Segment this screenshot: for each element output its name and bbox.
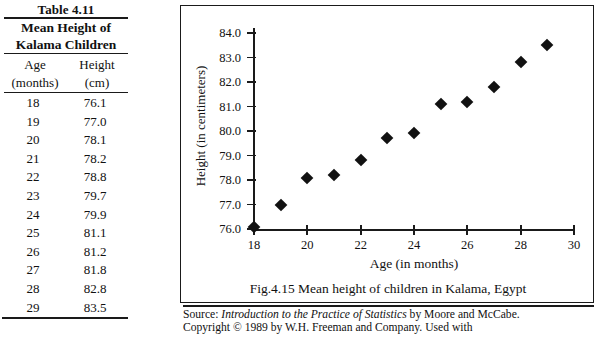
table-column-headers: Age (months) Height (cm) <box>4 56 128 92</box>
cell-height: 81.1 <box>66 224 124 243</box>
data-point <box>488 81 501 94</box>
y-axis-tick-label: 84.0 <box>193 27 241 40</box>
table-body: 1876.11977.02078.12178.22278.82379.72479… <box>4 94 128 317</box>
table-row: 2681.2 <box>4 243 128 262</box>
y-axis-tick <box>247 32 256 34</box>
y-axis-tick-label: 83.0 <box>193 52 241 65</box>
cell-height: 78.8 <box>66 168 124 187</box>
y-axis-tick-label: 77.0 <box>193 199 241 212</box>
column-header-age: Age (months) <box>6 56 64 92</box>
y-axis-tick-label: 81.0 <box>193 101 241 114</box>
data-point <box>461 95 474 108</box>
table-subtitle-line1: Mean Height of <box>2 20 130 37</box>
y-axis-tick-label: 80.0 <box>193 125 241 138</box>
cell-age: 21 <box>4 150 62 169</box>
y-axis-tick <box>247 204 256 206</box>
source-divider <box>183 305 594 307</box>
figure-caption: Fig.4.15 Mean height of children in Kala… <box>181 281 595 297</box>
cell-height: 82.8 <box>66 280 124 299</box>
table-rule-bottom <box>2 317 128 319</box>
scatter-plot-area: Height (in centimeters) Age (in months) … <box>181 6 595 304</box>
table-row: 2781.8 <box>4 261 128 280</box>
source-book-title: Introduction to the Practice of Statisti… <box>221 308 406 321</box>
y-axis-tick <box>247 106 256 108</box>
source-note: Source: Introduction to the Practice of … <box>183 308 598 335</box>
x-axis-tick-label: 24 <box>394 238 434 253</box>
x-axis-tick-label: 30 <box>554 238 594 253</box>
cell-age: 20 <box>4 131 62 150</box>
cell-age: 26 <box>4 243 62 262</box>
table-subtitle-line2: Kalama Children <box>2 37 130 54</box>
x-axis-tick <box>306 225 308 235</box>
y-axis-tick <box>247 130 256 132</box>
source-label: Source: <box>183 308 218 321</box>
table-row: 2379.7 <box>4 187 128 206</box>
y-axis-tick <box>247 81 256 83</box>
table-row: 1876.1 <box>4 94 128 113</box>
source-copyright: Copyright © 1989 by W.H. Freeman and Com… <box>183 321 473 334</box>
data-table-panel: Table 4.11 Mean Height of Kalama Childre… <box>0 0 178 340</box>
data-point <box>274 198 287 211</box>
cell-age: 22 <box>4 168 62 187</box>
cell-age: 27 <box>4 261 62 280</box>
cell-age: 28 <box>4 280 62 299</box>
data-point <box>408 127 421 140</box>
cell-height: 78.1 <box>66 131 124 150</box>
cell-age: 19 <box>4 113 62 132</box>
cell-age: 29 <box>4 299 62 318</box>
cell-height: 79.9 <box>66 206 124 225</box>
column-header-age-line1: Age <box>6 56 64 74</box>
x-axis-tick-label: 22 <box>341 238 381 253</box>
table-row: 1977.0 <box>4 113 128 132</box>
cell-age: 24 <box>4 206 62 225</box>
cell-height: 78.2 <box>66 150 124 169</box>
x-axis-tick <box>466 225 468 235</box>
chart-container: Height (in centimeters) Age (in months) … <box>180 5 594 303</box>
data-point <box>328 169 341 182</box>
table-row: 2078.1 <box>4 131 128 150</box>
cell-age: 25 <box>4 224 62 243</box>
column-header-height: Height (cm) <box>68 56 126 92</box>
data-point <box>381 132 394 145</box>
cell-height: 77.0 <box>66 113 124 132</box>
table-row: 2278.8 <box>4 168 128 187</box>
column-header-age-line2: (months) <box>6 74 64 92</box>
y-axis-tick <box>247 179 256 181</box>
y-axis-tick-label: 76.0 <box>193 223 241 236</box>
table-row: 2882.8 <box>4 280 128 299</box>
x-axis-label: Age (in months) <box>253 256 575 272</box>
data-point <box>541 39 554 52</box>
cell-height: 79.7 <box>66 187 124 206</box>
x-axis-tick-label: 26 <box>447 238 487 253</box>
cell-height: 76.1 <box>66 94 124 113</box>
y-axis-tick <box>247 57 256 59</box>
data-point <box>248 220 261 233</box>
x-axis-tick <box>413 225 415 235</box>
x-axis-tick-label: 18 <box>234 238 274 253</box>
y-axis-tick-label: 78.0 <box>193 174 241 187</box>
table-rule-top <box>4 17 128 19</box>
source-authors: by Moore and McCabe. <box>407 308 520 321</box>
data-point <box>354 154 367 167</box>
table-rule-subtitle <box>4 53 128 54</box>
y-axis-tick-label: 82.0 <box>193 76 241 89</box>
column-header-height-line1: Height <box>68 56 126 74</box>
data-point <box>434 98 447 111</box>
data-point <box>301 171 314 184</box>
x-axis-tick <box>360 225 362 235</box>
table-row: 2479.9 <box>4 206 128 225</box>
table-row: 2178.2 <box>4 150 128 169</box>
table-title: Table 4.11 <box>4 2 128 18</box>
x-axis-tick <box>573 225 575 235</box>
column-header-height-line2: (cm) <box>68 74 126 92</box>
x-axis-tick-label: 28 <box>501 238 541 253</box>
cell-height: 81.2 <box>66 243 124 262</box>
table-row: 2581.1 <box>4 224 128 243</box>
table-subtitle: Mean Height of Kalama Children <box>2 20 130 53</box>
x-axis-tick-label: 20 <box>287 238 327 253</box>
cell-height: 83.5 <box>66 299 124 318</box>
cell-height: 81.8 <box>66 261 124 280</box>
cell-age: 23 <box>4 187 62 206</box>
x-axis-tick <box>520 225 522 235</box>
y-axis-tick <box>247 155 256 157</box>
